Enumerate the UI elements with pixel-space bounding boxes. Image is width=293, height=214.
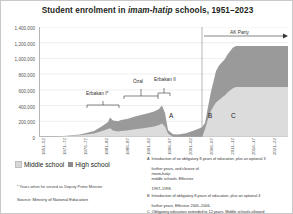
legend-swatch-high-school [68,162,73,167]
note-a-line1: Introduction of an obligatory 8 years of… [152,157,266,162]
plot-area: Erbakan I* Özal Erbakan II AK Party A B … [39,27,287,137]
note-b-line2: further years. Effective 2005–2006. [152,204,261,209]
x-tick-8: 2006–07 [209,138,214,155]
source-note: Source: Ministry of National Education [17,197,88,202]
x-tick-1: 1971–72 [62,138,67,155]
y-tick-400000: 400,000 [18,104,35,109]
legend-label-middle-school: Middle school [24,161,64,168]
notes-list: A Introduction of an obligatory 8 years … [147,157,291,214]
y-tick-1000000: 1,000,000 [15,57,35,62]
legend-label-high-school: High school [75,161,109,168]
x-tick-7: 2001–02 [188,138,193,155]
note-a: A Introduction of an obligatory 8 years … [147,157,291,192]
chart-legend: Middle school High school [15,161,110,168]
legend-swatch-middle-school [15,161,22,168]
title-pre: Student enrolment in [42,6,128,15]
y-tick-1200000: 1,200,000 [15,41,35,46]
marker-c: C [231,112,236,119]
note-a-key: A [147,157,150,192]
area-chart-svg [40,27,288,137]
note-a-text: Introduction of an obligatory 8 years of… [152,157,266,192]
y-tick-200000: 200,000 [18,120,35,125]
annotation-ozal: Özal [133,79,143,84]
y-tick-600000: 600,000 [18,88,35,93]
note-c: C Obligatory education extended to 12 ye… [147,210,291,214]
x-tick-11: 2021–22 [272,138,277,155]
annotation-erbakan-1: Erbakan I* [86,91,108,96]
x-tick-10: 2016–17 [251,138,256,155]
note-c-line1: Obligatory education extended to 12 year… [152,210,265,214]
x-tick-5: 1991–92 [146,138,151,155]
x-tick-0: 1951–52 [41,138,46,155]
note-a-line2-italic: imam-hatip [152,172,171,176]
note-a-line2-post: middle schools. Effective [152,177,266,182]
chart-figure: Student enrolment in imam-hatip schools,… [0,0,293,214]
note-c-key: C [147,210,150,214]
y-tick-800000: 800,000 [18,73,35,78]
y-tick-0: 0 [32,136,35,141]
erbakan1-bracket [87,101,119,108]
note-c-text: Obligatory education extended to 12 year… [152,210,265,214]
plot-canvas: Erbakan I* Özal Erbakan II AK Party A B … [39,27,287,137]
title-italic: imam-hatip [128,6,173,15]
marker-a: A [169,112,173,119]
annotation-erbakan-2: Erbakan II [154,77,176,82]
note-b-text: Introduction of obligatory 8 years of ed… [152,194,261,209]
erbakan2-bracket [158,88,170,96]
y-axis: 1,400,000 1,200,000 1,000,000 800,000 60… [1,27,37,139]
annotation-ak-party: AK Party [230,30,249,35]
x-tick-3: 1981–82 [104,138,109,155]
x-tick-9: 2011–12 [230,138,235,155]
note-b: B Introduction of obligatory 8 years of … [147,194,291,209]
marker-b: B [208,112,212,119]
title-post: schools, 1951–2023 [173,6,254,15]
note-b-key: B [147,194,150,209]
footnote: * Years when he served as Deputy Prime M… [17,184,102,189]
legend-item-high-school: High school [68,161,109,168]
y-tick-1400000: 1,400,000 [15,26,35,31]
chart-title: Student enrolment in imam-hatip schools,… [1,6,293,15]
note-b-line1: Introduction of obligatory 8 years of ed… [152,194,261,199]
x-tick-2: 1976–77 [83,138,88,155]
ozal-bracket [124,89,158,99]
note-a-line3: 1997–1998. [152,187,266,192]
x-tick-4: 1986–87 [125,138,130,155]
legend-item-middle-school: Middle school [15,161,64,168]
x-tick-6: 1996–97 [167,138,172,155]
